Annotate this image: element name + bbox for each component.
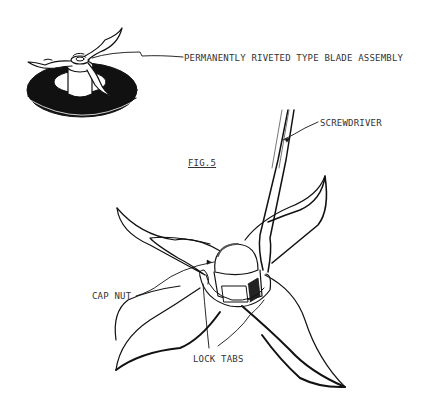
riveted-blade-assembly-illustration bbox=[27, 28, 183, 117]
label-screwdriver: SCREWDRIVER bbox=[320, 119, 382, 128]
label-lock-tabs: LOCK TABS bbox=[193, 355, 244, 364]
figure-title: FIG.5 bbox=[188, 159, 216, 168]
blade-assembly-illustration bbox=[115, 110, 345, 387]
label-blade-assembly: PERMANENTLY RIVETED TYPE BLADE ASSEMBLY bbox=[184, 54, 403, 63]
label-cap-nut: CAP NUT bbox=[92, 292, 131, 301]
